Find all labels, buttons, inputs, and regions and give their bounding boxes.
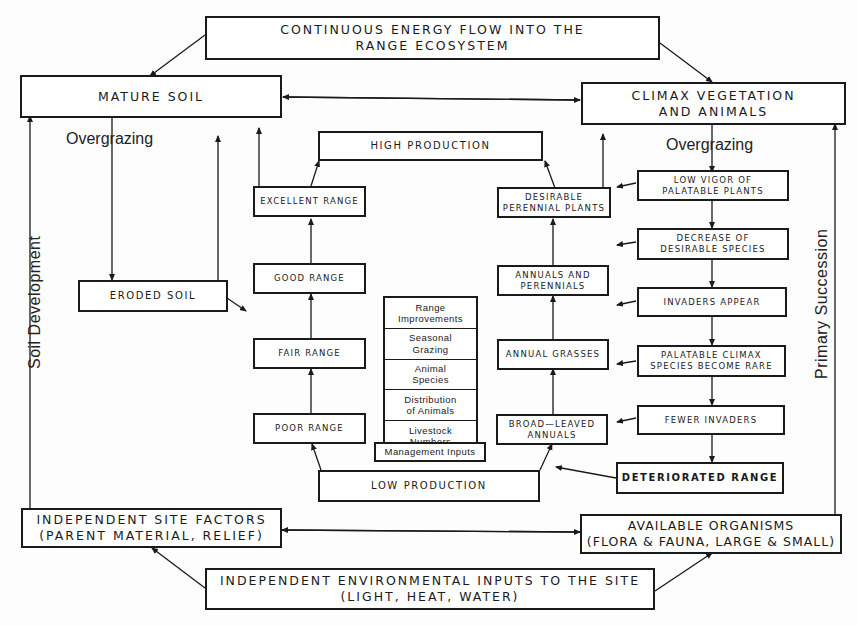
mgmt-line: Livestock xyxy=(409,425,452,436)
decrease-desirable-box: DECREASE OF DESIRABLE SPECIES xyxy=(637,228,789,260)
low-production-box: LOW PRODUCTION xyxy=(318,470,540,502)
excellent-range-box: EXCELLENT RANGE xyxy=(253,186,366,217)
management-stack: RangeImprovements SeasonalGrazing Animal… xyxy=(383,296,478,453)
poor-range-label: POOR RANGE xyxy=(275,423,344,434)
mgmt-line: Distribution xyxy=(404,394,456,405)
low-production-label: LOW PRODUCTION xyxy=(371,480,487,493)
step-line: PALATABLE PLANTS xyxy=(662,186,764,197)
eroded-soil-box: ERODED SOIL xyxy=(78,280,228,312)
step-line: SPECIES BECOME RARE xyxy=(650,361,773,372)
range-ecosystem-diagram: CONTINUOUS ENERGY FLOW INTO THE RANGE EC… xyxy=(0,0,857,626)
annuals-perennials-box: ANNUALS AND PERENNIALS xyxy=(497,265,609,296)
stage-line: PERENNIAL PLANTS xyxy=(503,203,605,214)
excellent-range-label: EXCELLENT RANGE xyxy=(260,196,359,207)
step-line: DECREASE OF xyxy=(676,233,749,244)
management-item-animal-species: AnimalSpecies xyxy=(385,360,476,391)
deteriorated-range-label: DETERIORATED RANGE xyxy=(622,472,778,485)
primary-succession-label: Primary Succession xyxy=(813,239,831,379)
climax-line2: AND ANIMALS xyxy=(659,104,768,120)
mgmt-line: Animal xyxy=(415,363,446,374)
overgrazing-right-label: Overgrazing xyxy=(666,136,753,154)
mature-soil-box: MATURE SOIL xyxy=(20,75,282,118)
mgmt-line: Species xyxy=(412,374,449,385)
broad-leaved-box: BROAD—LEAVED ANNUALS xyxy=(496,414,608,445)
stage-line: ANNUAL GRASSES xyxy=(506,349,600,360)
invaders-appear-box: INVADERS APPEAR xyxy=(637,287,787,317)
organisms-line2: (FLORA & FAUNA, LARGE & SMALL) xyxy=(587,534,835,550)
mgmt-line: Range xyxy=(416,302,446,313)
stage-line: DESIRABLE xyxy=(525,192,583,203)
mgmt-line: Grazing xyxy=(412,344,448,355)
stage-line: ANNUALS xyxy=(527,430,576,441)
mgmt-line: Improvements xyxy=(398,313,463,324)
step-line: INVADERS APPEAR xyxy=(663,297,760,308)
stage-line: ANNUALS AND xyxy=(515,270,590,281)
management-inputs-footer: Management Inputs xyxy=(374,442,486,462)
high-production-label: HIGH PRODUCTION xyxy=(370,140,490,153)
good-range-box: GOOD RANGE xyxy=(253,263,366,294)
mgmt-line: Seasonal xyxy=(409,332,452,343)
climax-box: CLIMAX VEGETATION AND ANIMALS xyxy=(581,82,846,125)
management-inputs-label: Management Inputs xyxy=(385,446,476,458)
management-item-distribution: Distributionof Animals xyxy=(385,390,476,421)
stage-line: BROAD—LEAVED xyxy=(509,419,596,430)
fair-range-box: FAIR RANGE xyxy=(253,338,366,369)
fewer-invaders-box: FEWER INVADERS xyxy=(637,405,785,435)
climax-line1: CLIMAX VEGETATION xyxy=(631,88,795,104)
stage-line: PERENNIALS xyxy=(521,281,586,292)
annual-grasses-box: ANNUAL GRASSES xyxy=(497,339,609,370)
env-inputs-line2: (LIGHT, HEAT, WATER) xyxy=(340,589,519,605)
management-item-seasonal-grazing: SeasonalGrazing xyxy=(385,329,476,360)
site-factors-box: INDEPENDENT SITE FACTORS (PARENT MATERIA… xyxy=(21,508,282,548)
deteriorated-range-box: DETERIORATED RANGE xyxy=(616,462,784,494)
energy-flow-box: CONTINUOUS ENERGY FLOW INTO THE RANGE EC… xyxy=(205,16,660,60)
step-line: FEWER INVADERS xyxy=(665,415,758,426)
energy-flow-line2: RANGE ECOSYSTEM xyxy=(356,38,510,54)
step-line: LOW VIGOR OF xyxy=(674,175,752,186)
low-vigor-box: LOW VIGOR OF PALATABLE PLANTS xyxy=(637,170,789,201)
energy-flow-line1: CONTINUOUS ENERGY FLOW INTO THE xyxy=(280,22,584,38)
desirable-perennial-box: DESIRABLE PERENNIAL PLANTS xyxy=(497,187,611,218)
mgmt-line: of Animals xyxy=(407,405,455,416)
site-factors-line2: (PARENT MATERIAL, RELIEF) xyxy=(39,528,264,544)
step-line: DESIRABLE SPECIES xyxy=(660,244,765,255)
step-line: PALATABLE CLIMAX xyxy=(661,350,762,361)
organisms-line1: AVAILABLE ORGANISMS xyxy=(628,518,794,534)
eroded-soil-label: ERODED SOIL xyxy=(110,290,196,303)
poor-range-box: POOR RANGE xyxy=(253,413,366,444)
mature-soil-label: MATURE SOIL xyxy=(98,89,204,105)
fair-range-label: FAIR RANGE xyxy=(278,348,341,359)
soil-development-label: Soil Development xyxy=(26,249,44,369)
palatable-rare-box: PALATABLE CLIMAX SPECIES BECOME RARE xyxy=(637,345,786,377)
env-inputs-line1: INDEPENDENT ENVIRONMENTAL INPUTS TO THE … xyxy=(220,573,640,589)
site-factors-line1: INDEPENDENT SITE FACTORS xyxy=(36,512,266,528)
management-item-range-improvements: RangeImprovements xyxy=(385,298,476,329)
high-production-box: HIGH PRODUCTION xyxy=(318,131,543,161)
env-inputs-box: INDEPENDENT ENVIRONMENTAL INPUTS TO THE … xyxy=(205,568,655,610)
good-range-label: GOOD RANGE xyxy=(274,273,345,284)
overgrazing-left-label: Overgrazing xyxy=(66,130,153,148)
organisms-box: AVAILABLE ORGANISMS (FLORA & FAUNA, LARG… xyxy=(580,514,842,554)
